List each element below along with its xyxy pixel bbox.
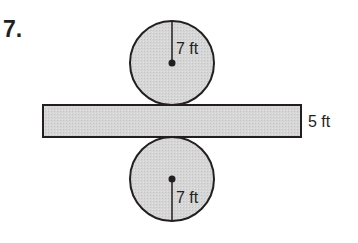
bottom-center-dot xyxy=(169,176,176,183)
cylinder-net-figure: 7 ft 5 ft 7 ft xyxy=(0,0,358,243)
top-circle: 7 ft xyxy=(130,21,214,105)
bottom-radius-label: 7 ft xyxy=(176,189,199,206)
lateral-rectangle: 5 ft xyxy=(43,105,331,137)
top-radius-label: 7 ft xyxy=(176,40,199,57)
bottom-circle: 7 ft xyxy=(130,137,214,221)
rectangle-height-label: 5 ft xyxy=(308,113,331,130)
top-center-dot xyxy=(169,60,176,67)
